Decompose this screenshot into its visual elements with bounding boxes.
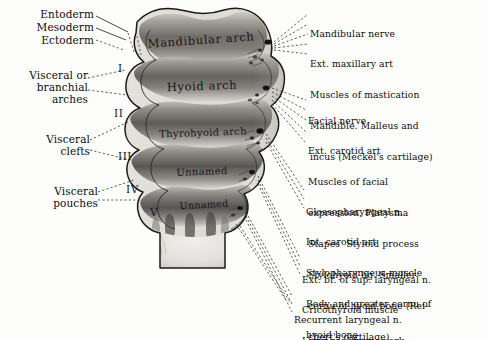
label-line: Ext. carotid art <box>308 146 488 156</box>
label-visceral-clefts: Visceral clefts <box>12 134 90 158</box>
label-visceral-pouches: Visceral pouches <box>18 186 98 210</box>
label-line: Ext. maxillary art <box>310 59 488 69</box>
label-mesoderm: Mesoderm <box>8 22 94 34</box>
numeral-arch-3: III <box>118 150 132 162</box>
numeral-arch-1: I <box>118 62 123 74</box>
label-arch-5-derivatives: Recurrent laryngeal n. Intrinsic muscles… <box>294 294 488 340</box>
label-line: Int. carotid art <box>306 237 488 247</box>
label-line: Glossopharyngeal n. <box>306 207 488 217</box>
label-entoderm: Entoderm <box>8 9 94 21</box>
label-line: Recurrent laryngeal n. <box>294 315 488 325</box>
label-line: Ext. br. of sup. laryngeal n. <box>302 275 488 285</box>
label-visceral-branchial-arches: Visceral or branchial arches <box>6 70 88 105</box>
label-line: Facial nerve <box>308 116 488 126</box>
numeral-arch-5: V <box>150 206 158 218</box>
numeral-arch-4: IV <box>126 183 139 195</box>
label-ectoderm: Ectoderm <box>4 35 94 47</box>
label-line: Mandibular nerve <box>310 29 488 39</box>
illustration-page: Entoderm Mesoderm Ectoderm Visceral or b… <box>0 0 488 340</box>
numeral-arch-2: II <box>114 107 123 119</box>
